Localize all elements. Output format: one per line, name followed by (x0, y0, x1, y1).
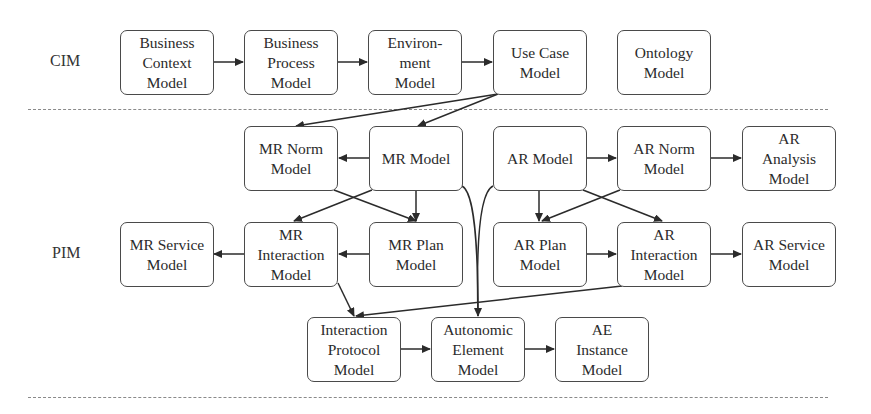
node-mr-norm-model: MR Norm Model (244, 126, 338, 191)
node-ar-model: AR Model (493, 126, 587, 191)
edge-use-case-to-mr-norm (296, 94, 498, 126)
edge-use-case-to-mr-model (418, 94, 498, 126)
node-interaction-protocol-model: Interaction Protocol Model (307, 317, 401, 382)
edge-ar-model-to-ar-interaction (583, 190, 662, 221)
node-mr-service-model: MR Service Model (120, 222, 214, 287)
node-ontology-model: Ontology Model (617, 30, 711, 95)
edge-ar-model-to-autonomic-element (478, 186, 493, 316)
edge-ar-interaction-to-interaction-protocol (356, 286, 622, 316)
edge-mr-interaction-to-interaction-protocol (338, 283, 354, 316)
edge-mr-model-to-mr-interaction (294, 190, 372, 221)
node-mr-interaction-model: MR Interaction Model (244, 222, 338, 287)
node-ae-instance-model: AE Instance Model (555, 317, 649, 382)
node-ar-plan-model: AR Plan Model (493, 222, 587, 287)
node-ar-norm-model: AR Norm Model (617, 126, 711, 191)
node-autonomic-element-model: Autonomic Element Model (431, 317, 525, 382)
node-business-process-model: Business Process Model (244, 30, 338, 95)
edge-ar-norm-to-ar-plan (542, 190, 620, 221)
node-mr-model: MR Model (369, 126, 463, 191)
node-business-context-model: Business Context Model (120, 30, 214, 95)
edge-mr-model-to-autonomic-element (462, 186, 478, 316)
node-use-case-model: Use Case Model (493, 30, 587, 95)
node-ar-analysis-model: AR Analysis Model (742, 126, 836, 191)
edge-mr-norm-to-mr-plan (334, 190, 416, 221)
node-mr-plan-model: MR Plan Model (369, 222, 463, 287)
node-ar-interaction-model: AR Interaction Model (617, 222, 711, 287)
node-environment-model: Environ- ment Model (368, 30, 462, 95)
node-ar-service-model: AR Service Model (742, 222, 836, 287)
